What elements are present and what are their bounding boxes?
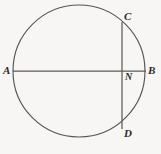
- figure-canvas: [0, 0, 161, 154]
- point-label-d: D: [124, 128, 132, 139]
- point-label-c: C: [124, 11, 131, 22]
- point-label-b: B: [148, 65, 155, 76]
- point-label-a: A: [3, 65, 10, 76]
- geometry-figure: A B C D N: [0, 0, 161, 154]
- point-label-n: N: [125, 71, 132, 82]
